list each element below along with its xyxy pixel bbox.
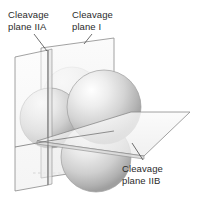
cleavage-plane-figure: Cleavage plane IIA Cleavage plane I Clea… — [0, 0, 201, 203]
label-cleavage-plane-iib: Cleavage plane IIB — [122, 163, 163, 186]
label-cleavage-plane-i: Cleavage plane I — [72, 9, 113, 32]
label-cleavage-plane-iia: Cleavage plane IIA — [8, 9, 49, 32]
leader-line-iia — [34, 34, 47, 51]
cleavage-plane-iia — [15, 49, 52, 191]
